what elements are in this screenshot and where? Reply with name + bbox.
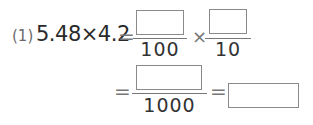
numerator-input-3[interactable] xyxy=(136,65,202,90)
equals-sign-3: = xyxy=(210,79,227,103)
expression: 5.48×4.2 xyxy=(36,22,130,46)
equals-sign-2: = xyxy=(114,79,131,103)
problem-number: (1) xyxy=(12,27,33,45)
numerator-input-1[interactable] xyxy=(136,10,184,35)
denominator-1: 100 xyxy=(133,38,187,60)
denominator-3: 1000 xyxy=(132,94,207,116)
answer-input[interactable] xyxy=(228,83,299,108)
denominator-2: 10 xyxy=(205,38,251,60)
numerator-input-2[interactable] xyxy=(209,9,247,34)
